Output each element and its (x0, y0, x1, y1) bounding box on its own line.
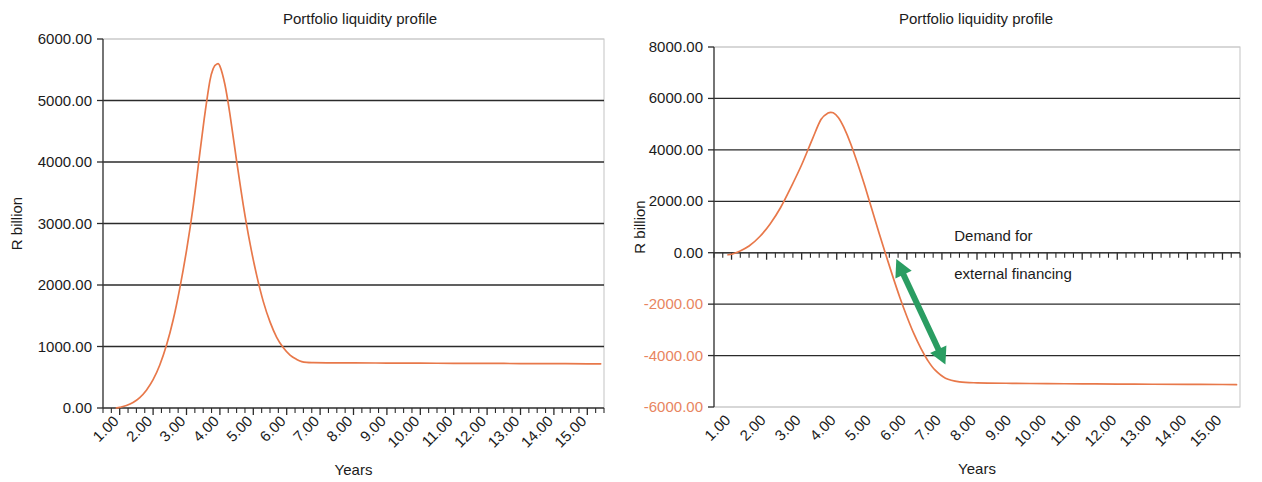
x-tick-label-group: 5.00 (223, 412, 256, 445)
x-tick-label-group: 13.00 (1116, 411, 1155, 450)
x-tick-label-group: 4.00 (189, 412, 222, 445)
annotation-arrow-shaft (902, 271, 940, 353)
x-tick-label-13.00: 13.00 (1116, 411, 1155, 450)
y-axis-label-group: R billion (631, 200, 648, 253)
y-tick-label-1000: 1000.00 (38, 338, 92, 355)
x-tick-label-5.00: 5.00 (841, 411, 874, 444)
x-tick-label-4.00: 4.00 (189, 412, 222, 445)
y-axis-label: R billion (8, 197, 25, 250)
x-tick-label-group: 15.00 (1186, 411, 1225, 450)
y-tick-label-2000: 2000.00 (649, 192, 703, 209)
y-tick-label-5000: 5000.00 (38, 92, 92, 109)
x-tick-label-4.00: 4.00 (806, 411, 839, 444)
x-tick-label-group: 10.00 (1011, 411, 1050, 450)
x-tick-label-1.00: 1.00 (89, 412, 122, 445)
y-tick-label-3000: 3000.00 (38, 215, 92, 232)
x-tick-label-group: 10.00 (384, 412, 423, 451)
y-axis-label-group: R billion (8, 197, 25, 250)
x-tick-label-6.00: 6.00 (256, 412, 289, 445)
x-tick-label-group: 7.00 (911, 411, 944, 444)
x-tick-label-7.00: 7.00 (290, 412, 323, 445)
x-tick-label-10.00: 10.00 (1011, 411, 1050, 450)
y-tick-label-6000: 6000.00 (649, 89, 703, 106)
x-tick-label-group: 7.00 (290, 412, 323, 445)
x-tick-label-7.00: 7.00 (911, 411, 944, 444)
y-tick-label--2000: -2000.00 (644, 295, 703, 312)
x-tick-label-group: 2.00 (123, 412, 156, 445)
x-tick-label-8.00: 8.00 (946, 411, 979, 444)
x-tick-label-group: 5.00 (841, 411, 874, 444)
x-tick-label-3.00: 3.00 (771, 411, 804, 444)
y-tick-label-0: 0.00 (63, 399, 92, 416)
x-tick-label-group: 3.00 (156, 412, 189, 445)
y-tick-label-2000: 2000.00 (38, 276, 92, 293)
y-tick-label-4000: 4000.00 (649, 141, 703, 158)
annotation-line-2: external financing (954, 265, 1072, 282)
x-tick-label-group: 14.00 (517, 412, 556, 451)
x-tick-label-15.00: 15.00 (1186, 411, 1225, 450)
x-tick-label-5.00: 5.00 (223, 412, 256, 445)
chart-title: Portfolio liquidity profile (283, 10, 437, 27)
x-tick-label-group: 12.00 (1081, 411, 1120, 450)
x-tick-label-13.00: 13.00 (484, 412, 523, 451)
x-tick-label-group: 12.00 (451, 412, 490, 451)
x-tick-label-12.00: 12.00 (451, 412, 490, 451)
x-tick-label-group: 15.00 (551, 412, 590, 451)
x-tick-label-2.00: 2.00 (736, 411, 769, 444)
x-tick-label-group: 13.00 (484, 412, 523, 451)
x-tick-label-group: 4.00 (806, 411, 839, 444)
x-tick-label-group: 1.00 (701, 411, 734, 444)
chart-panel-right: -6000.00-4000.00-2000.000.002000.004000.… (631, 0, 1262, 482)
x-tick-label-11.00: 11.00 (418, 412, 456, 450)
figure-container: 0.001000.002000.003000.004000.005000.006… (0, 0, 1262, 482)
x-tick-label-1.00: 1.00 (701, 411, 734, 444)
x-tick-label-group: 11.00 (1047, 411, 1085, 449)
y-tick-label--6000: -6000.00 (644, 398, 703, 415)
x-tick-label-group: 6.00 (876, 411, 909, 444)
x-tick-label-14.00: 14.00 (1151, 411, 1190, 450)
x-tick-label-group: 1.00 (89, 412, 122, 445)
chart-svg-left: 0.001000.002000.003000.004000.005000.006… (0, 0, 631, 482)
series-line-0 (116, 64, 600, 408)
y-tick-label-8000: 8000.00 (649, 38, 703, 55)
x-tick-label-group: 2.00 (736, 411, 769, 444)
y-tick-label-6000: 6000.00 (38, 30, 92, 47)
bottom-text-fragment (0, 470, 1262, 482)
x-tick-label-group: 11.00 (418, 412, 456, 450)
x-tick-label-3.00: 3.00 (156, 412, 189, 445)
x-tick-label-group: 6.00 (256, 412, 289, 445)
x-tick-label-group: 14.00 (1151, 411, 1190, 450)
x-tick-label-group: 8.00 (946, 411, 979, 444)
x-tick-label-2.00: 2.00 (123, 412, 156, 445)
x-tick-label-group: 9.00 (982, 411, 1015, 444)
series-line-0 (728, 112, 1236, 384)
x-tick-label-10.00: 10.00 (384, 412, 423, 451)
x-tick-label-15.00: 15.00 (551, 412, 590, 451)
x-tick-label-6.00: 6.00 (876, 411, 909, 444)
x-tick-label-12.00: 12.00 (1081, 411, 1120, 450)
x-tick-label-group: 8.00 (323, 412, 356, 445)
chart-title: Portfolio liquidity profile (899, 10, 1053, 27)
chart-svg-right: -6000.00-4000.00-2000.000.002000.004000.… (631, 0, 1262, 482)
x-tick-label-group: 3.00 (771, 411, 804, 444)
x-tick-label-14.00: 14.00 (517, 412, 556, 451)
annotation-line-1: Demand for (954, 227, 1032, 244)
x-tick-label-11.00: 11.00 (1047, 411, 1085, 449)
chart-panel-left: 0.001000.002000.003000.004000.005000.006… (0, 0, 631, 482)
y-tick-label-0: 0.00 (674, 244, 703, 261)
x-tick-label-9.00: 9.00 (982, 411, 1015, 444)
x-tick-label-8.00: 8.00 (323, 412, 356, 445)
y-axis-label: R billion (631, 200, 648, 253)
y-tick-label-4000: 4000.00 (38, 153, 92, 170)
y-tick-label--4000: -4000.00 (644, 347, 703, 364)
